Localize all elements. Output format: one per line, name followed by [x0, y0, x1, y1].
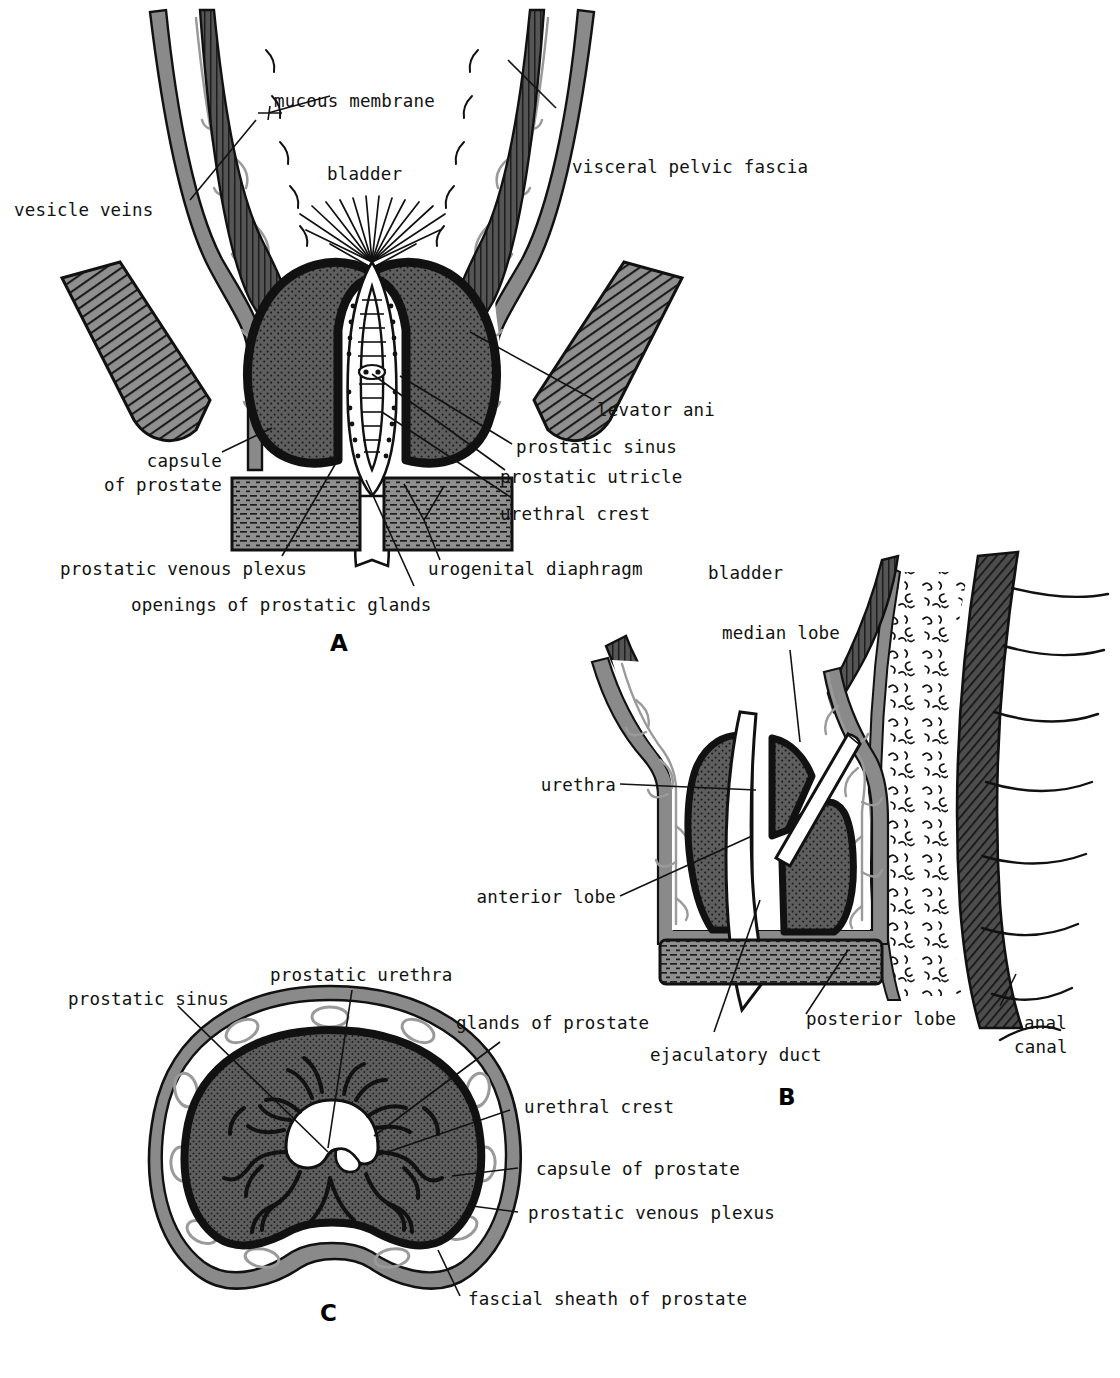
panel-b-urogenital-diaphragm [660, 940, 882, 984]
label-openings-of-prostatic-glands: openings of prostatic glands [131, 594, 432, 617]
label-bladder-a: bladder [327, 163, 402, 186]
label-urethra-b: urethra [446, 774, 616, 797]
panel-letter-c: C [320, 1300, 337, 1326]
label-bladder-b: bladder [708, 562, 783, 585]
label-capsule-of-prostate-c: capsule of prostate [536, 1158, 740, 1181]
label-levator-ani: levator ani [597, 399, 715, 422]
label-prostatic-venous-plexus-c: prostatic venous plexus [528, 1202, 775, 1225]
label-capsule-of-prostate-a-line1: capsule [76, 450, 222, 473]
label-prostatic-utricle: prostatic utricle [500, 466, 683, 489]
anal-canal-wall [957, 552, 1022, 1028]
label-anal-canal-line1: anal [1024, 1012, 1067, 1035]
label-mucous-membrane: mucous membrane [274, 90, 435, 113]
label-vesicle-veins: vesicle veins [14, 199, 154, 222]
label-capsule-of-prostate-a-line2: of prostate [76, 474, 222, 497]
label-ejaculatory-duct: ejaculatory duct [650, 1044, 822, 1067]
label-anterior-lobe: anterior lobe [436, 886, 616, 909]
loose-connective-tissue [881, 572, 968, 996]
anatomy-plate: mucous membrane bladder visceral pelvic … [0, 0, 1120, 1378]
label-prostatic-venous-plexus-a: prostatic venous plexus [60, 558, 307, 581]
label-prostatic-sinus-c: prostatic sinus [68, 988, 229, 1011]
prostatic-utricle-shape [359, 365, 385, 379]
label-anal-canal-line2: canal [1014, 1036, 1068, 1059]
label-prostatic-urethra: prostatic urethra [270, 964, 453, 987]
label-prostatic-sinus-a: prostatic sinus [516, 436, 677, 459]
label-urethral-crest-a: urethral crest [500, 503, 650, 526]
label-urogenital-diaphragm: urogenital diaphragm [428, 558, 643, 581]
label-median-lobe: median lobe [722, 622, 840, 645]
panel-letter-b: B [778, 1084, 796, 1110]
label-glands-of-prostate: glands of prostate [456, 1012, 649, 1035]
label-posterior-lobe: posterior lobe [806, 1008, 956, 1031]
label-urethral-crest-c: urethral crest [524, 1096, 674, 1119]
label-visceral-pelvic-fascia: visceral pelvic fascia [572, 156, 808, 179]
panel-b-figure [592, 552, 1108, 1040]
panel-letter-a: A [330, 630, 348, 656]
label-fascial-sheath-of-prostate: fascial sheath of prostate [468, 1288, 747, 1311]
